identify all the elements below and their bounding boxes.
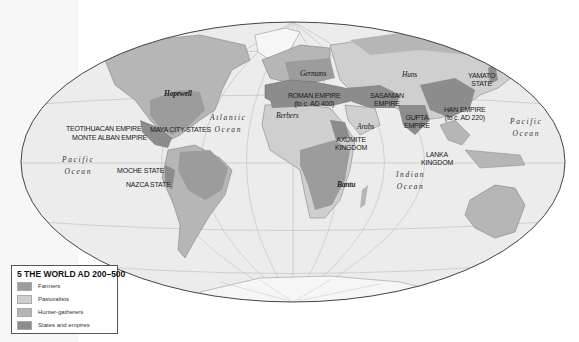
- legend-swatch: [17, 321, 32, 330]
- legend-item-states-and-empires: States and empires: [17, 319, 112, 331]
- label-nazca-state: NAZCA STATE: [126, 181, 171, 189]
- label-pacific-ocean-east: PacificOcean: [510, 116, 542, 140]
- label-teotihuacan-empire: TEOTIHUACAN EMPIRE: [66, 125, 141, 133]
- label-germans: Germans: [300, 70, 326, 78]
- label-huns: Huns: [402, 71, 417, 79]
- label-maya-city-states: MAYA CITY-STATES: [150, 126, 211, 134]
- label-atlantic-ocean: AtlanticOcean: [210, 112, 247, 136]
- legend-item-farmers: Farmers: [17, 280, 112, 292]
- label-bantu: Bantu: [337, 181, 355, 189]
- label-monte-alban-empire: MONTE ALBAN EMPIRE: [72, 134, 147, 142]
- legend-swatch: [17, 308, 32, 317]
- label-sasanian-empire: SASANIANEMPIRE: [370, 92, 404, 108]
- label-indian-ocean: IndianOcean: [396, 169, 425, 193]
- label-berbers: Berbers: [276, 112, 298, 120]
- label-axumite-kingdom: AXUMITEKINGDOM: [335, 136, 367, 152]
- new-zealand: [530, 238, 548, 258]
- legend-item-pastoralists: Pastoralists: [17, 293, 112, 305]
- legend-swatch: [17, 295, 32, 304]
- label-pacific-ocean-west: PacificOcean: [62, 154, 94, 178]
- label-roman-empire: ROMAN EMPIRE(to c. AD 400): [288, 92, 340, 108]
- label-hopewell: Hopewell: [164, 90, 192, 98]
- map-legend: 5 THE WORLD AD 200–500 Farmers Pastorali…: [11, 265, 118, 334]
- legend-item-hunter-gatherers: Hunter-gatherers: [17, 306, 112, 318]
- label-han-empire: HAN EMPIRE(to c. AD 220): [444, 106, 486, 122]
- label-moche-state: MOCHE STATE: [117, 167, 164, 175]
- label-arabs: Arabs: [357, 123, 374, 131]
- legend-swatch: [17, 282, 32, 291]
- legend-title: 5 THE WORLD AD 200–500: [17, 269, 112, 279]
- label-yamato-state: YAMATOSTATE: [468, 72, 495, 88]
- label-lanka-kingdom: LANKAKINGDOM: [421, 151, 453, 167]
- label-gupta-empire: GUPTAEMPIRE: [404, 114, 430, 130]
